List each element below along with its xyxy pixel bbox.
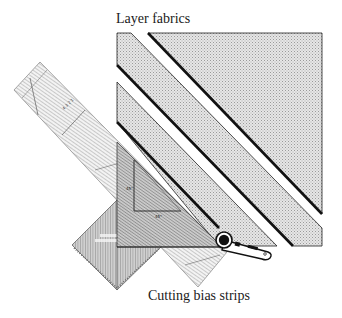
cutting-bias-strips-label: Cutting bias strips (148, 288, 250, 304)
svg-text:45°: 45° (126, 186, 133, 191)
svg-text:45°: 45° (155, 214, 162, 219)
bias-cutting-illustration: 4 3 2 1 45° 45° (0, 0, 342, 318)
